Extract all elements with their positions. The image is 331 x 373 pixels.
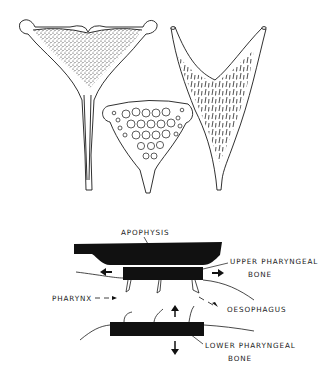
apophysis-block [74,242,222,265]
label-oesophagus: OESOPHAGUS [227,306,286,313]
arrow-left-icon [100,268,112,276]
middle-pharyngeal-bone [103,100,193,193]
label-apophysis: APOPHYSIS [121,229,169,236]
label-lower-bone: BONE [228,355,252,362]
lower-pharyngeal-bone [110,322,204,336]
arrow-down-icon [171,341,179,355]
pharyngeal-jaw-figure [0,0,331,373]
arrow-right-icon [212,269,224,277]
label-lower-pharyngeal: LOWER PHARYNGEAL [205,342,296,349]
arrow-up-icon [171,305,179,317]
label-upper-pharyngeal: UPPER PHARYNGEAL [230,258,318,265]
label-pharynx: PHARYNX [52,295,92,302]
label-upper-bone: BONE [248,271,272,278]
upper-pharyngeal-bone [123,267,203,280]
jaw-schematic [74,237,254,355]
